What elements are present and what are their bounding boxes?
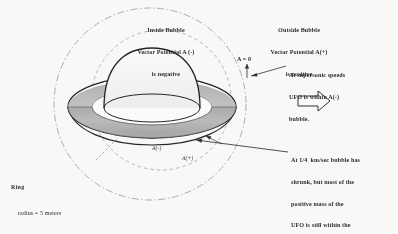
- inside-bubble-line-2: Vector Potential A (-): [118, 49, 214, 56]
- inside-bubble-line-1: Inside Bubble: [118, 27, 214, 34]
- ring-specs-heading: Ring: [11, 183, 119, 192]
- quarter-km-line-2: shrunk, but most of the: [291, 179, 395, 186]
- a-plus-arrowhead: [206, 136, 211, 140]
- supersonic-line-2: UFO is within A(-): [289, 94, 385, 101]
- supersonic-annotation: At supersonic speeds UFO is within A(-) …: [289, 58, 385, 137]
- ring-specs-block: Ring radius = 5 meters volume = 4 cu.m m…: [11, 166, 119, 234]
- supersonic-line-1: At supersonic speeds: [289, 72, 385, 79]
- zero-potential-label: A = 0: [237, 56, 277, 63]
- supersonic-line-3: bubble.: [289, 116, 385, 123]
- outside-bubble-line-1: Outside Bubble: [248, 27, 350, 34]
- ring-spec-radius: radius = 5 meters: [11, 209, 119, 218]
- quarter-km-leader-line: [196, 140, 288, 152]
- a-minus-label: A(-): [152, 145, 161, 152]
- inside-bubble-line-3: is negative: [118, 71, 214, 78]
- inside-bubble-annotation: Inside Bubble Vector Potential A (-) is …: [118, 13, 214, 92]
- quarter-km-line-3: positive mass of the: [291, 201, 395, 208]
- quarter-km-line-4: UFO is still within the: [291, 222, 395, 229]
- quarter-km-annotation: At 1/4 km/sec bubble has shrunk, but mos…: [291, 143, 395, 234]
- quarter-km-line-1: At 1/4 km/sec bubble has: [291, 157, 395, 164]
- figure-canvas: Inside Bubble Vector Potential A (-) is …: [0, 0, 398, 234]
- a-plus-label: A(+): [182, 155, 193, 162]
